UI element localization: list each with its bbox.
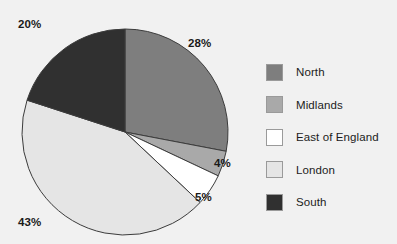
legend-swatch-east-of-england: [266, 129, 283, 146]
legend-label-south: South: [296, 196, 327, 208]
legend-label-london: London: [296, 164, 335, 176]
legend-swatch-midlands: [266, 96, 283, 113]
legend-label-north: North: [296, 66, 325, 78]
legend-label-east-of-england: East of England: [296, 131, 379, 143]
pie-slice-north[interactable]: [125, 29, 228, 151]
legend-swatch-south: [266, 194, 283, 211]
pie-slice-group: [22, 29, 228, 235]
legend-item-north[interactable]: North: [266, 56, 394, 89]
legend-item-london[interactable]: London: [266, 154, 394, 187]
legend-item-east-of-england[interactable]: East of England: [266, 121, 394, 154]
pie-label-east-of-england: 5%: [195, 191, 212, 203]
pie-label-south: 20%: [18, 18, 41, 30]
pie-chart-figure: 20%28%4%5%43% NorthMidlandsEast of Engla…: [0, 0, 397, 244]
pie-plot-area: 20%28%4%5%43%: [0, 0, 250, 244]
legend-item-midlands[interactable]: Midlands: [266, 89, 394, 122]
pie-label-north: 28%: [188, 37, 211, 49]
legend-item-south[interactable]: South: [266, 186, 394, 219]
legend-label-midlands: Midlands: [296, 99, 343, 111]
pie-svg: [0, 0, 250, 244]
chart-legend: NorthMidlandsEast of EnglandLondonSouth: [266, 56, 394, 219]
pie-label-midlands: 4%: [214, 157, 231, 169]
pie-label-london: 43%: [18, 216, 41, 228]
legend-swatch-london: [266, 161, 283, 178]
legend-swatch-north: [266, 64, 283, 81]
